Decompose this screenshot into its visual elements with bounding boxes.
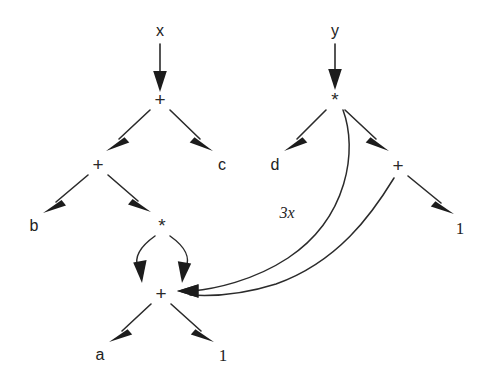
edge-star1-to-plus3 (345, 110, 389, 151)
diagram-canvas: x y + * + c d + b * 1 + a 1 3x (0, 0, 490, 382)
node-star-lower[interactable]: * (158, 216, 165, 235)
edge-plus4-to-a (109, 304, 151, 342)
node-one-right[interactable]: 1 (456, 220, 465, 237)
node-x[interactable]: x (156, 23, 164, 39)
node-d[interactable]: d (271, 157, 280, 173)
edge-plus3-to-plus4-long (177, 178, 394, 298)
edge-plus1-to-c (170, 110, 213, 151)
node-plus-right-mid[interactable]: + (392, 156, 403, 175)
edge-star1-to-d (284, 110, 326, 151)
node-star-root-right[interactable]: * (331, 90, 338, 109)
edge-plus2-to-b (43, 175, 88, 213)
node-c[interactable]: c (218, 157, 226, 173)
edge-star1-to-plus4-long (177, 110, 349, 298)
node-b[interactable]: b (30, 218, 39, 234)
node-y[interactable]: y (331, 23, 339, 39)
edge-plus4-to-one-bottom (171, 304, 214, 342)
graph-edges-svg (0, 0, 490, 382)
node-plus-left-mid[interactable]: + (92, 155, 103, 174)
edge-y-to-star1 (328, 44, 342, 90)
edge-star2-to-plus4-left (133, 236, 155, 283)
edge-label-3x: 3x (279, 204, 294, 222)
node-plus-shared[interactable]: + (155, 284, 166, 303)
node-a[interactable]: a (96, 347, 105, 363)
edge-x-to-plus1 (153, 44, 167, 92)
node-one-bottom[interactable]: 1 (219, 347, 228, 364)
edge-plus2-to-star2 (108, 175, 151, 212)
edge-plus1-to-plus2 (106, 110, 150, 151)
node-plus-root-left[interactable]: + (154, 90, 165, 109)
edge-star2-to-plus4-right (170, 236, 191, 283)
edge-plus3-to-one-right (408, 176, 454, 214)
